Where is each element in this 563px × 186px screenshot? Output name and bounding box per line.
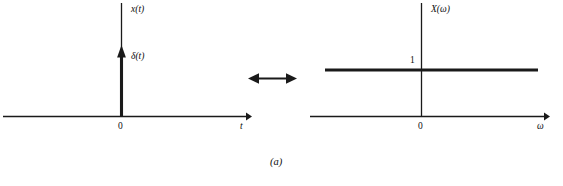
figure-caption: (a) [270, 157, 282, 168]
right-origin-label: 0 [418, 122, 423, 132]
right-omega-axis-arrowhead [544, 112, 550, 120]
right-spectrum-label: X(ω) [431, 5, 450, 15]
left-time-axis-arrowhead [246, 112, 252, 120]
left-signal-label: x(t) [131, 5, 144, 15]
transform-pair-arrow [248, 73, 297, 83]
right-xaxis-label: ω [537, 122, 544, 132]
right-panel-frequency-domain [310, 3, 550, 121]
transform-pair-arrowhead-left [248, 73, 259, 83]
transform-pair-arrowhead-right [286, 73, 297, 83]
impulse-arrowhead [117, 45, 126, 58]
impulse-label: δ(t) [131, 52, 144, 62]
left-origin-label: 0 [118, 122, 123, 132]
figure-container: x(t) δ(t) 0 t X(ω) 1 0 ω (a) [0, 0, 563, 186]
spectrum-amplitude-label: 1 [410, 56, 415, 66]
left-panel-time-domain [3, 3, 252, 121]
left-xaxis-label: t [240, 122, 243, 132]
